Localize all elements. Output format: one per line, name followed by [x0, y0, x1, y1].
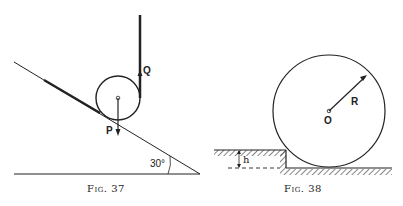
arrow-q-icon	[138, 70, 143, 76]
rope-on-incline	[44, 80, 100, 113]
caption-fig-38: Fig. 38	[284, 183, 322, 194]
label-h: h	[243, 154, 250, 165]
radius-line	[329, 77, 365, 111]
label-q: Q	[143, 65, 151, 76]
figure-37: Q P 30°	[14, 15, 200, 174]
label-r: R	[351, 96, 359, 107]
arrow-p-icon	[116, 129, 121, 136]
angle-arc	[168, 156, 170, 174]
label-p: P	[106, 125, 113, 136]
figure-38: R O h	[214, 55, 392, 175]
floor-hatch	[280, 169, 392, 175]
diagram-canvas: Q P 30° R O h	[0, 0, 403, 206]
step-side-hatch	[280, 150, 286, 169]
step-hatch	[214, 150, 286, 156]
caption-fig-37: Fig. 37	[87, 183, 125, 194]
label-angle: 30°	[150, 158, 165, 169]
label-o: O	[324, 115, 332, 126]
